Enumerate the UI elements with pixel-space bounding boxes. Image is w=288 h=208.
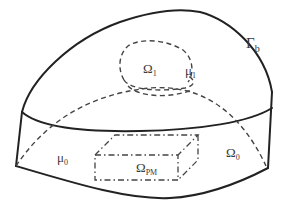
pm-box-top [95,135,198,155]
right-edge [268,92,272,168]
pm-region-label: ΩPM [136,160,157,177]
boundary-label: Γb [246,35,260,54]
inner-region-bottom [124,76,193,90]
outer-perm-label: μ0 [57,150,68,167]
inner-region-label: Ω1 [143,61,157,78]
inner-perm-label: μ1 [185,63,196,80]
domain-diagram: Γb Ω1 μ1 μ0 Ω0 ΩPM [0,0,288,208]
outer-region-label: Ω0 [226,145,240,162]
pm-box-side [178,135,198,180]
